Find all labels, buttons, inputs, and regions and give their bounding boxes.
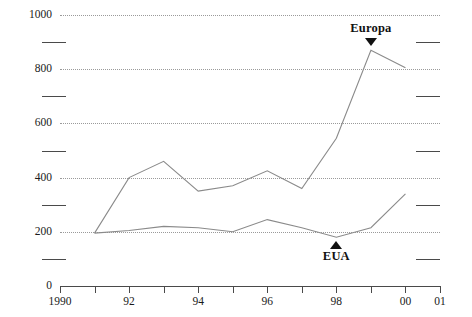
minor-tick-right-500 <box>416 151 440 152</box>
gridline-y-800 <box>60 69 440 70</box>
annotation-label-europa: Europa <box>350 21 391 36</box>
plot-area <box>60 15 440 286</box>
x-axis-tick-1997 <box>302 286 303 293</box>
y-axis-label-0: 0 <box>0 280 52 292</box>
minor-tick-right-100 <box>416 259 440 260</box>
minor-tick-left-900 <box>42 42 66 43</box>
x-axis-tick-1999 <box>371 286 372 293</box>
minor-tick-right-300 <box>416 205 440 206</box>
x-axis-tick-1991 <box>95 286 96 293</box>
x-axis-label-98: 98 <box>331 295 343 307</box>
x-axis-label-00: 00 <box>400 295 412 307</box>
y-axis-label-600: 600 <box>0 118 52 130</box>
minor-tick-right-900 <box>416 42 440 43</box>
x-axis-tick-1990 <box>60 286 61 293</box>
minor-tick-left-700 <box>42 96 66 97</box>
chart-title <box>0 0 472 1</box>
x-axis-tick-1998 <box>336 286 337 293</box>
x-axis-label-01: 01 <box>434 295 446 307</box>
x-axis-line <box>60 286 440 287</box>
minor-tick-right-700 <box>416 96 440 97</box>
x-axis-tick-2001 <box>440 286 441 293</box>
gridline-y-200 <box>60 232 440 233</box>
gridline-y-1000 <box>60 15 440 16</box>
x-axis-tick-1996 <box>267 286 268 293</box>
y-axis-label-400: 400 <box>0 172 52 184</box>
x-axis-label-96: 96 <box>262 295 274 307</box>
annotation-arrow-down-icon <box>365 38 377 46</box>
y-axis-label-800: 800 <box>0 63 52 75</box>
x-axis-label-1990: 1990 <box>49 295 72 307</box>
x-axis-tick-1993 <box>164 286 165 293</box>
x-axis-label-92: 92 <box>123 295 135 307</box>
y-axis-label-1000: 1000 <box>0 9 52 21</box>
annotation-label-eua: EUA <box>323 249 350 264</box>
annotation-arrow-up-icon <box>330 241 342 249</box>
line-chart: 020040060080010001990929496980001 Europa… <box>0 0 472 317</box>
x-axis-label-94: 94 <box>192 295 204 307</box>
x-axis-tick-1994 <box>198 286 199 293</box>
minor-tick-left-500 <box>42 151 66 152</box>
x-axis-tick-1992 <box>129 286 130 293</box>
gridline-y-600 <box>60 123 440 124</box>
gridline-y-400 <box>60 178 440 179</box>
x-axis-tick-1995 <box>233 286 234 293</box>
y-axis-label-200: 200 <box>0 226 52 238</box>
minor-tick-left-300 <box>42 205 66 206</box>
minor-tick-left-100 <box>42 259 66 260</box>
x-axis-tick-2000 <box>405 286 406 293</box>
